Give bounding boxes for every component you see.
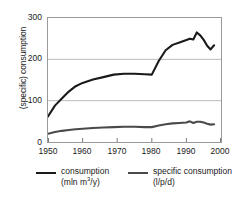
chart-legend: consumption (mln m3/y) specific consumpt…: [0, 166, 235, 199]
legend-swatch-specific-consumption: [128, 172, 148, 174]
legend-unit-specific-consumption: (l/p/d): [153, 177, 232, 188]
legend-unit-consumption: (mln m3/y): [61, 177, 109, 188]
chart-figure: (specific) consumption 300 200 100 0: [0, 0, 235, 199]
x-tick-1980: 1980: [131, 146, 171, 156]
gridlines: [48, 59, 221, 100]
x-axis-ticks: [49, 138, 221, 142]
plot-area: [47, 17, 222, 143]
legend-label-specific-consumption-text: specific consumption: [153, 166, 232, 176]
legend-label-consumption: consumption (mln m3/y): [61, 166, 109, 188]
x-tick-1960: 1960: [62, 146, 102, 156]
series-line-specific-consumption: [48, 121, 214, 133]
chart-canvas: [48, 18, 221, 142]
y-tick-200: 200: [16, 54, 42, 62]
series-line-consumption: [48, 32, 214, 116]
x-axis-tick-labels: 1950 1960 1970 1980 1990 2000: [0, 146, 235, 160]
legend-label-specific-consumption: specific consumption (l/p/d): [153, 166, 232, 188]
y-tick-100: 100: [16, 96, 42, 104]
legend-swatch-consumption: [36, 172, 56, 174]
y-tick-300: 300: [16, 13, 42, 21]
legend-unit-consumption-prefix: (mln m: [61, 177, 87, 187]
x-tick-2000: 2000: [200, 146, 235, 156]
legend-label-consumption-text: consumption: [61, 166, 109, 176]
y-tick-0: 0: [16, 138, 42, 146]
legend-unit-consumption-suffix: /y): [90, 177, 99, 187]
